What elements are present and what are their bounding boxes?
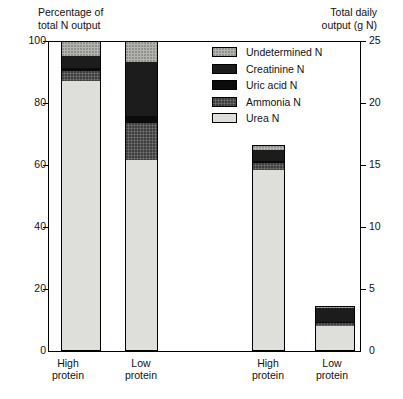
segment-uric-acid-n xyxy=(315,322,355,323)
legend-label: Uric acid N xyxy=(246,79,297,91)
y-ticklabel-right-20: 20 xyxy=(369,96,381,108)
y-ticklabel-right-15: 15 xyxy=(369,158,381,170)
category-label-line1: Low xyxy=(322,357,341,369)
category-label-line2: protein xyxy=(52,369,84,381)
urea-swatch-icon xyxy=(212,113,237,123)
category-label-3: Highprotein xyxy=(241,357,295,381)
segment-uric-acid-n xyxy=(125,116,158,123)
x-axis-line xyxy=(48,351,361,352)
legend-item-undetermined-n: Undetermined N xyxy=(212,44,362,61)
y-ticklabel-left-40: 40 xyxy=(34,220,46,232)
legend-item-uric-acid-n: Uric acid N xyxy=(212,77,362,94)
segment-ammonia-n xyxy=(61,71,101,81)
y-ticklabel-left-20: 20 xyxy=(34,282,46,294)
y-ticklabel-right-0: 0 xyxy=(369,344,375,356)
segment-creatinine-n xyxy=(252,150,285,161)
y-tick-right-5 xyxy=(361,289,366,290)
segment-ammonia-n xyxy=(252,163,285,170)
segment-urea-n xyxy=(61,81,101,351)
left-axis-title-line1: Percentage of xyxy=(38,6,103,18)
right-axis-title-line2: output (g N) xyxy=(322,19,377,31)
bar-low-protein-percentage xyxy=(125,41,158,351)
y-ticklabel-left-0: 0 xyxy=(40,344,46,356)
segment-ammonia-n xyxy=(125,123,158,160)
undetermined-swatch-icon xyxy=(212,47,237,57)
legend-label: Urea N xyxy=(246,112,279,124)
y-ticklabel-right-5: 5 xyxy=(369,282,375,294)
left-axis-title-line2: total N output xyxy=(38,19,100,31)
left-axis-title: Percentage oftotal N output xyxy=(38,6,103,31)
category-label-line2: protein xyxy=(252,369,284,381)
segment-ammonia-n xyxy=(315,323,355,326)
y-axis-left-line xyxy=(48,41,49,352)
legend-item-ammonia-n: Ammonia N xyxy=(212,94,362,111)
category-label-1: Highprotein xyxy=(41,357,95,381)
segment-urea-n xyxy=(315,326,355,351)
category-label-2: Lowprotein xyxy=(114,357,168,381)
segment-undetermined-n xyxy=(315,306,355,308)
legend-item-creatinine-n: Creatinine N xyxy=(212,61,362,78)
segment-uric-acid-n xyxy=(252,161,285,163)
y-tick-right-10 xyxy=(361,227,366,228)
segment-creatinine-n xyxy=(125,62,158,116)
creatinine-swatch-icon xyxy=(212,64,237,74)
category-label-line2: protein xyxy=(316,369,348,381)
y-ticklabel-right-25: 25 xyxy=(369,34,381,46)
segment-undetermined-n xyxy=(61,41,101,56)
legend-label: Creatinine N xyxy=(246,63,304,75)
legend: Undetermined N Creatinine N Uric acid N … xyxy=(212,44,362,127)
category-label-line2: protein xyxy=(125,369,157,381)
y-ticklabel-right-10: 10 xyxy=(369,220,381,232)
category-label-line1: Low xyxy=(131,357,150,369)
y-tick-right-25 xyxy=(361,41,366,42)
segment-urea-n xyxy=(252,170,285,351)
bar-high-protein-percentage xyxy=(61,41,101,351)
legend-label: Ammonia N xyxy=(246,96,301,108)
segment-uric-acid-n xyxy=(61,68,101,71)
right-axis-title-line1: Total daily xyxy=(330,6,377,18)
y-ticklabel-left-60: 60 xyxy=(34,158,46,170)
segment-undetermined-n xyxy=(125,41,158,62)
category-label-line1: High xyxy=(57,357,79,369)
category-label-4: Lowprotein xyxy=(305,357,359,381)
y-tick-right-15 xyxy=(361,165,366,166)
segment-creatinine-n xyxy=(315,308,355,322)
segment-undetermined-n xyxy=(252,145,285,150)
right-axis-title: Total dailyoutput (g N) xyxy=(322,6,377,31)
stacked-bar-chart: Percentage oftotal N output Total dailyo… xyxy=(0,0,403,399)
category-label-line1: High xyxy=(257,357,279,369)
y-ticklabel-left-100: 100 xyxy=(28,34,46,46)
segment-urea-n xyxy=(125,160,158,351)
uric-acid-swatch-icon xyxy=(212,80,237,90)
segment-creatinine-n xyxy=(61,56,101,68)
legend-label: Undetermined N xyxy=(246,46,322,58)
legend-item-urea-n: Urea N xyxy=(212,110,362,127)
ammonia-swatch-icon xyxy=(212,97,237,107)
y-ticklabel-left-80: 80 xyxy=(34,96,46,108)
